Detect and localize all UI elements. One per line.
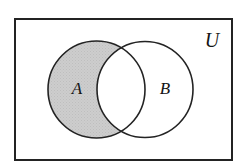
venn-diagram-figure: A B U xyxy=(0,0,248,168)
set-b-label: B xyxy=(160,79,171,98)
universal-set-label: U xyxy=(205,29,221,51)
venn-diagram-canvas: A B U xyxy=(0,0,248,168)
shaded-region-a-minus-b xyxy=(0,0,248,168)
set-a-label: A xyxy=(71,79,83,98)
